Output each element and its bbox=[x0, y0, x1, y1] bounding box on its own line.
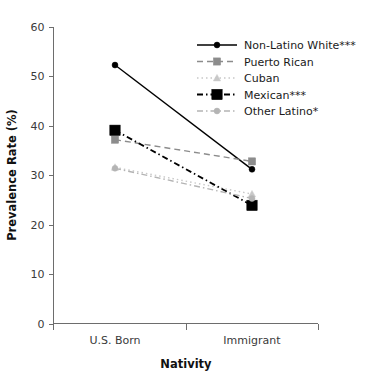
x-axis-ticks: U.S. BornImmigrant bbox=[54, 324, 319, 347]
data-point-marker bbox=[247, 200, 257, 210]
data-point-marker bbox=[213, 58, 220, 65]
line-chart: 0102030405060 U.S. BornImmigrant Non-Lat… bbox=[0, 0, 371, 384]
chart-series bbox=[110, 125, 257, 211]
y-axis-title: Prevalence Rate (%) bbox=[5, 109, 19, 241]
chart-series bbox=[111, 136, 255, 165]
series-line bbox=[115, 65, 252, 169]
y-tick-label: 30 bbox=[31, 169, 45, 182]
series-line bbox=[115, 140, 252, 162]
legend-item[interactable]: Puerto Rican bbox=[197, 56, 314, 69]
x-tick-label: U.S. Born bbox=[89, 334, 140, 347]
x-axis-title: Nativity bbox=[160, 357, 212, 371]
series-line bbox=[115, 168, 252, 198]
y-tick-label: 40 bbox=[31, 120, 45, 133]
data-point-marker bbox=[111, 136, 118, 143]
y-tick-label: 0 bbox=[38, 318, 45, 331]
chart-legend: Non-Latino White***Puerto RicanCubanMexi… bbox=[197, 39, 356, 118]
legend-label: Cuban bbox=[244, 72, 279, 85]
series-line bbox=[115, 130, 252, 205]
data-point-marker bbox=[112, 165, 118, 171]
data-point-marker bbox=[110, 125, 120, 135]
series-line bbox=[115, 167, 252, 194]
legend-label: Mexican*** bbox=[244, 89, 306, 102]
data-point-marker bbox=[249, 196, 255, 202]
legend-item[interactable]: Mexican*** bbox=[197, 89, 306, 102]
chart-container: 0102030405060 U.S. BornImmigrant Non-Lat… bbox=[0, 0, 371, 384]
chart-series bbox=[111, 164, 255, 197]
x-tick-label: Immigrant bbox=[223, 334, 281, 347]
data-point-marker bbox=[249, 166, 255, 172]
y-tick-label: 20 bbox=[31, 219, 45, 232]
data-point-marker bbox=[212, 89, 222, 99]
legend-label: Non-Latino White*** bbox=[244, 39, 356, 52]
data-point-marker bbox=[112, 62, 118, 68]
data-point-marker bbox=[214, 108, 220, 114]
data-point-marker bbox=[214, 42, 220, 48]
data-point-marker bbox=[248, 158, 255, 165]
legend-item[interactable]: Cuban bbox=[197, 72, 279, 85]
legend-label: Other Latino* bbox=[244, 105, 319, 118]
y-tick-label: 60 bbox=[31, 21, 45, 34]
y-tick-label: 10 bbox=[31, 268, 45, 281]
series-layer bbox=[110, 62, 257, 210]
y-tick-label: 50 bbox=[31, 70, 45, 83]
legend-item[interactable]: Non-Latino White*** bbox=[197, 39, 356, 52]
y-axis-ticks: 0102030405060 bbox=[31, 21, 54, 331]
legend-item[interactable]: Other Latino* bbox=[197, 105, 319, 118]
legend-label: Puerto Rican bbox=[244, 56, 314, 69]
